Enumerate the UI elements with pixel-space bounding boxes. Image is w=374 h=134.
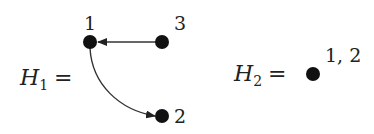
graph-h1-subscript: 1 (39, 77, 48, 93)
edge-1-to-2 (90, 48, 155, 116)
graph-h2-subscript: 2 (253, 73, 262, 89)
node-3 (155, 35, 169, 49)
diagram-canvas: H1= 1 3 2 H2= 1, 2 (0, 0, 374, 134)
node-1-2 (306, 67, 320, 81)
node-2 (155, 109, 169, 123)
graph-h1-equals: = (54, 65, 72, 90)
graph-h2-label: H2= (233, 61, 287, 89)
node-2-label: 2 (174, 105, 186, 127)
svg-text:H1=: H1= (19, 65, 73, 93)
node-1 (83, 35, 97, 49)
node-1-2-label: 1, 2 (325, 44, 361, 66)
svg-text:H2=: H2= (233, 61, 287, 89)
node-1-label: 1 (84, 12, 96, 34)
graph-h1-label: H1= (19, 65, 73, 93)
graph-h2-name: H (233, 61, 254, 86)
graph-h2-equals: = (268, 61, 286, 86)
node-3-label: 3 (174, 12, 186, 34)
graph-h1-name: H (19, 65, 40, 90)
